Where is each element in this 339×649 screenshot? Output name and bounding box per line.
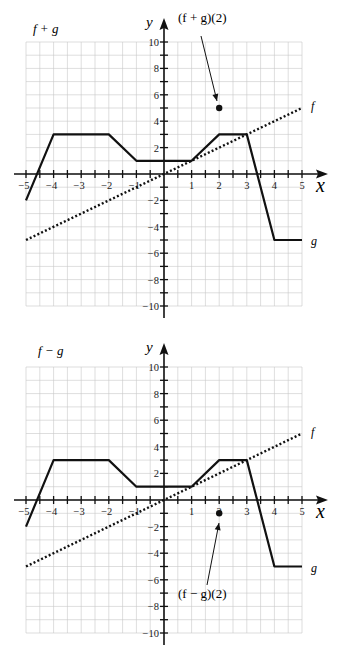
point-label: (f + g)(2) — [178, 10, 226, 25]
y-tick-label: −10 — [143, 301, 159, 312]
highlight-point — [216, 105, 222, 111]
annotation-arrow — [207, 523, 219, 585]
y-tick-label: −8 — [148, 275, 159, 286]
y-tick-label: 8 — [154, 63, 159, 74]
x-tick-label: 1 — [189, 506, 194, 517]
y-tick-label: 2 — [154, 468, 159, 479]
x-tick-label: 4 — [272, 506, 278, 517]
y-tick-label: −6 — [148, 575, 159, 586]
x-tick-label: −4 — [46, 180, 58, 191]
y-axis-label: y — [144, 339, 153, 355]
x-tick-label: −3 — [74, 506, 85, 517]
g-label: g — [311, 234, 317, 248]
top-chart: −5−4−3−2−112345−10−8−6−4−2246810xyfgf + … — [14, 10, 328, 318]
y-tick-label: 6 — [154, 90, 159, 101]
g-label: g — [311, 561, 317, 575]
x-tick-label: −4 — [46, 506, 58, 517]
x-tick-label: 5 — [299, 180, 304, 191]
x-tick-label: −3 — [74, 180, 85, 191]
figure: −5−4−3−2−112345−10−8−6−4−2246810xyfgf + … — [0, 0, 339, 649]
x-tick-label: 3 — [244, 180, 249, 191]
y-tick-label: −6 — [148, 248, 159, 259]
x-tick-label: −5 — [18, 506, 29, 517]
x-tick-label: −5 — [18, 180, 29, 191]
y-tick-label: −4 — [148, 222, 160, 233]
x-tick-label: 4 — [272, 180, 278, 191]
y-tick-label: 2 — [154, 143, 159, 154]
x-tick-label: −1 — [129, 506, 140, 517]
y-tick-label: −2 — [148, 195, 159, 206]
y-tick-label: −4 — [148, 548, 160, 559]
axes: −5−4−3−2−112345−10−8−6−4−2246810xy — [14, 339, 328, 645]
x-tick-label: 2 — [217, 180, 222, 191]
y-tick-label: −2 — [148, 522, 159, 533]
x-axis-label: x — [315, 500, 325, 522]
y-tick-label: 6 — [154, 415, 159, 426]
y-tick-label: 10 — [149, 362, 160, 373]
chart-title: f − g — [38, 343, 64, 358]
f-label: f — [311, 99, 316, 113]
x-tick-label: 3 — [244, 506, 249, 517]
highlight-point — [216, 510, 222, 516]
chart-title: f + g — [33, 21, 59, 36]
y-tick-label: 8 — [154, 389, 159, 400]
x-tick-label: 5 — [299, 506, 304, 517]
y-tick-label: −8 — [148, 601, 159, 612]
f-label: f — [311, 425, 316, 439]
y-tick-label: 4 — [154, 442, 160, 453]
bottom-chart: −5−4−3−2−112345−10−8−6−4−2246810xyfgf − … — [14, 339, 328, 645]
x-tick-label: −2 — [101, 506, 112, 517]
point-label: (f − g)(2) — [178, 586, 226, 601]
y-axis-label: y — [144, 14, 153, 30]
y-tick-label: 4 — [154, 116, 160, 127]
x-tick-label: −2 — [101, 180, 112, 191]
x-axis-label: x — [315, 174, 325, 196]
x-tick-label: −1 — [129, 180, 140, 191]
x-tick-label: 1 — [189, 180, 194, 191]
y-tick-label: −10 — [143, 628, 159, 639]
axes: −5−4−3−2−112345−10−8−6−4−2246810xy — [14, 14, 328, 318]
y-tick-label: 10 — [149, 37, 160, 48]
